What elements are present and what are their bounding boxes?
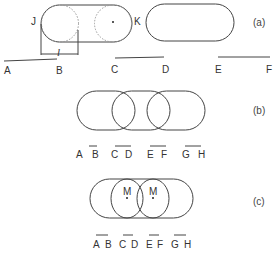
label-j: J [31,16,36,27]
stadium-b-1 [77,91,135,130]
label-a: A [4,65,11,76]
label-b: B [56,65,63,76]
label-e: E [215,64,222,75]
label-c-b: B [105,239,112,250]
label-c-f: F [157,239,163,250]
diagram-canvas: J K l (a) A B C D E F (b) A B C D E F G … [0,0,274,257]
label-b-c: C [111,149,118,160]
label-m-left: M [123,186,131,197]
stadium-shape-jk [41,5,132,42]
dotted-circle-left [42,5,79,42]
label-c: C [111,64,118,75]
label-c-h: H [184,239,191,250]
label-b-d: D [125,149,132,160]
panel-a: J K l (a) A B C D E F [4,4,272,76]
label-b-g: G [182,149,190,160]
segment-cd [115,57,164,58]
label-c-a: A [93,239,100,250]
label-b-e: E [147,149,154,160]
midpoint-dot-left [126,197,128,199]
panel-label-a: (a) [253,17,265,28]
label-c-c: C [119,239,126,250]
stadium-b-2 [112,91,170,130]
label-b-a: A [76,149,83,160]
stadium-shape-right [146,4,234,41]
label-l: l [57,46,60,58]
panel-label-b: (b) [253,105,265,116]
midpoint-dot-right [152,197,154,199]
center-dot [112,21,114,23]
stadium-b-3 [147,91,205,130]
label-f: F [266,64,272,75]
label-c-e: E [146,239,153,250]
label-b-h: H [198,149,205,160]
label-k: K [134,16,141,27]
label-c-d: D [131,239,138,250]
label-b-b: B [92,149,99,160]
label-b-f: F [161,149,167,160]
segment-ab [4,59,57,61]
label-d: D [162,64,169,75]
panel-b: (b) A B C D E F G H [76,91,265,160]
label-c-g: G [171,239,179,250]
dotted-circle-right [95,5,132,42]
panel-c: M M (c) A B C D E F G H [90,179,265,250]
label-m-right: M [149,186,157,197]
panel-label-c: (c) [253,196,265,207]
